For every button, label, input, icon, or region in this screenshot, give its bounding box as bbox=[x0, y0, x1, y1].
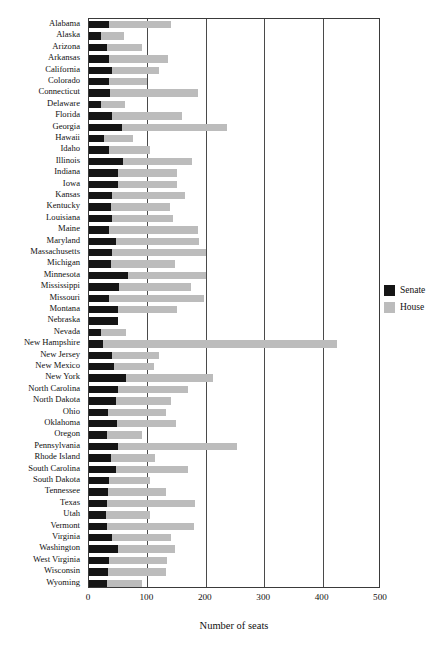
bar-segment-senate bbox=[89, 44, 107, 52]
bar-row bbox=[89, 181, 177, 189]
bar-segment-senate bbox=[89, 500, 107, 508]
y-axis-tick-label: Minnesota bbox=[44, 269, 80, 280]
bar-row bbox=[89, 249, 206, 257]
bar-segment-house bbox=[101, 329, 126, 337]
bar-row bbox=[89, 488, 166, 496]
bar-segment-senate bbox=[89, 352, 112, 360]
bar-row bbox=[89, 511, 150, 519]
bar-segment-house bbox=[112, 534, 170, 542]
bar-segment-senate bbox=[89, 363, 114, 371]
bar-row bbox=[89, 44, 142, 52]
legend-item-senate: Senate bbox=[384, 284, 441, 296]
bar-segment-house bbox=[101, 101, 125, 109]
bar-segment-house bbox=[111, 203, 169, 211]
y-axis-tick-label: Idaho bbox=[60, 143, 80, 154]
bar-segment-house bbox=[116, 238, 198, 246]
bar-row bbox=[89, 192, 185, 200]
bar-segment-senate bbox=[89, 317, 118, 325]
y-axis-tick-label: South Dakota bbox=[33, 474, 80, 485]
bar-row bbox=[89, 329, 126, 337]
bar-row bbox=[89, 557, 167, 565]
y-axis-tick-label: Missouri bbox=[49, 292, 80, 303]
bar-row bbox=[89, 466, 188, 474]
y-axis-tick-label: Georgia bbox=[52, 121, 80, 132]
bar-segment-house bbox=[108, 409, 166, 417]
bar-row bbox=[89, 146, 150, 154]
bar-segment-house bbox=[114, 363, 155, 371]
bar-segment-senate bbox=[89, 545, 118, 553]
bar-segment-senate bbox=[89, 283, 119, 291]
bar-segment-senate bbox=[89, 409, 108, 417]
y-axis-tick-label: Indiana bbox=[54, 166, 80, 177]
bar-segment-house bbox=[118, 443, 237, 451]
bar-row bbox=[89, 386, 188, 394]
legend-swatch-house bbox=[384, 302, 395, 313]
bar-segment-house bbox=[109, 78, 147, 86]
bar-segment-house bbox=[109, 226, 197, 234]
bar-row bbox=[89, 352, 159, 360]
bar-row bbox=[89, 409, 166, 417]
bar-row bbox=[89, 55, 168, 63]
bar-segment-senate bbox=[89, 454, 111, 462]
y-axis-tick-label: New York bbox=[45, 371, 80, 382]
x-axis-tick-label: 100 bbox=[140, 592, 154, 602]
bar-segment-house bbox=[112, 352, 159, 360]
y-axis-tick-label: North Dakota bbox=[33, 394, 80, 405]
y-axis-tick-label: Colorado bbox=[48, 75, 80, 86]
bar-segment-senate bbox=[89, 215, 112, 223]
bar-segment-senate bbox=[89, 124, 122, 132]
y-axis-tick-label: Virginia bbox=[52, 531, 80, 542]
y-axis-tick-label: Michigan bbox=[47, 257, 80, 268]
bar-row bbox=[89, 500, 195, 508]
y-axis-tick-label: Maryland bbox=[47, 235, 80, 246]
bar-row bbox=[89, 260, 175, 268]
bar-segment-house bbox=[101, 32, 124, 40]
bar-rows bbox=[89, 19, 379, 587]
y-axis-tick-label: New Hampshire bbox=[24, 337, 80, 348]
y-axis-tick-label: Oregon bbox=[54, 428, 80, 439]
bar-segment-house bbox=[123, 158, 192, 166]
x-axis-tick-label: 0 bbox=[86, 592, 91, 602]
bar-segment-house bbox=[112, 192, 185, 200]
bar-segment-house bbox=[108, 488, 166, 496]
bar-segment-house bbox=[112, 67, 159, 75]
bar-row bbox=[89, 101, 125, 109]
bar-row bbox=[89, 283, 191, 291]
y-axis-tick-label: Nebraska bbox=[48, 314, 80, 325]
y-axis-tick-label: Massachusetts bbox=[30, 246, 80, 257]
bar-row bbox=[89, 169, 177, 177]
bar-segment-senate bbox=[89, 249, 112, 257]
y-axis-tick-label: Iowa bbox=[63, 178, 80, 189]
bar-segment-house bbox=[109, 477, 150, 485]
bar-segment-house bbox=[118, 181, 176, 189]
y-axis-tick-label: Hawaii bbox=[55, 132, 80, 143]
bar-row bbox=[89, 580, 142, 588]
bar-segment-house bbox=[103, 340, 337, 348]
bar-row bbox=[89, 67, 159, 75]
bar-segment-house bbox=[112, 215, 173, 223]
x-axis-tick-label: 400 bbox=[315, 592, 329, 602]
bar-row bbox=[89, 523, 194, 531]
bar-segment-senate bbox=[89, 203, 111, 211]
bar-row bbox=[89, 238, 199, 246]
bar-segment-senate bbox=[89, 135, 104, 143]
bar-segment-senate bbox=[89, 397, 116, 405]
y-axis-tick-label: Florida bbox=[55, 109, 80, 120]
bar-segment-house bbox=[109, 146, 150, 154]
bar-segment-senate bbox=[89, 386, 118, 394]
bar-segment-senate bbox=[89, 32, 101, 40]
y-axis-tick-label: Maine bbox=[58, 223, 80, 234]
y-axis-tick-label: Montana bbox=[49, 303, 80, 314]
bar-segment-senate bbox=[89, 158, 123, 166]
y-axis-tick-label: Nevada bbox=[54, 326, 80, 337]
bar-segment-senate bbox=[89, 523, 107, 531]
bar-row bbox=[89, 545, 175, 553]
x-axis-title: Number of seats bbox=[88, 620, 380, 631]
bar-row bbox=[89, 272, 206, 280]
bar-segment-house bbox=[109, 557, 167, 565]
bar-segment-senate bbox=[89, 557, 109, 565]
x-axis-tick-label: 300 bbox=[256, 592, 270, 602]
bar-segment-house bbox=[109, 55, 167, 63]
bar-segment-senate bbox=[89, 67, 112, 75]
bar-segment-house bbox=[112, 249, 205, 257]
